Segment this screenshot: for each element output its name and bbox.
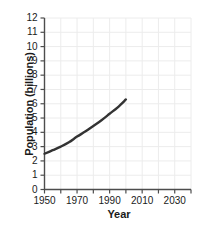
svg-text:1990: 1990 (98, 195, 121, 206)
population-growth-chart: 0123456789101112 19501970199020102030 Po… (0, 0, 198, 227)
svg-text:2010: 2010 (131, 195, 154, 206)
y-axis-title: Population (billions) (23, 19, 35, 189)
svg-text:2030: 2030 (164, 195, 187, 206)
x-axis-tick-labels: 19501970199020102030 (33, 195, 186, 206)
svg-text:1950: 1950 (33, 195, 56, 206)
population-line-series (45, 99, 126, 153)
svg-text:1970: 1970 (66, 195, 89, 206)
x-axis-title: Year (44, 208, 194, 220)
horizontal-gridlines (45, 18, 192, 175)
